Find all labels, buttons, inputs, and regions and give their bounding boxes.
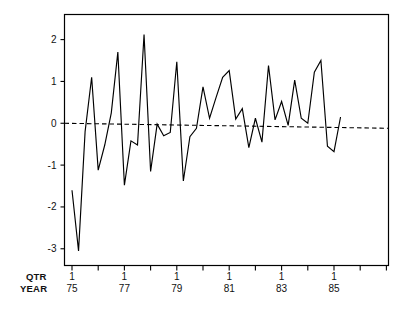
y-tick-label: -1 — [48, 160, 57, 171]
year-row-label: YEAR — [20, 283, 47, 294]
chart-container: 210-1-2-3 QTR YEAR 111111 757779818385 — [0, 0, 407, 315]
year-tick-label: 83 — [276, 283, 288, 294]
year-tick-label: 75 — [66, 283, 78, 294]
y-tick-label: -3 — [48, 243, 57, 254]
timeseries-chart: 210-1-2-3 QTR YEAR 111111 757779818385 — [0, 0, 407, 315]
year-tick-label: 81 — [224, 283, 236, 294]
year-tick-label: 85 — [328, 283, 340, 294]
y-tick-label: 2 — [51, 34, 57, 45]
y-tick-label: -2 — [48, 201, 57, 212]
qtr-row-label: QTR — [26, 271, 47, 282]
qtr-tick-label: 1 — [69, 271, 75, 282]
year-tick-label: 79 — [171, 283, 183, 294]
qtr-tick-label: 1 — [331, 271, 337, 282]
y-tick-label: 1 — [51, 76, 57, 87]
qtr-tick-label: 1 — [226, 271, 232, 282]
year-tick-label: 77 — [119, 283, 131, 294]
qtr-tick-label: 1 — [122, 271, 128, 282]
qtr-tick-label: 1 — [279, 271, 285, 282]
y-tick-label: 0 — [51, 118, 57, 129]
qtr-tick-label: 1 — [174, 271, 180, 282]
